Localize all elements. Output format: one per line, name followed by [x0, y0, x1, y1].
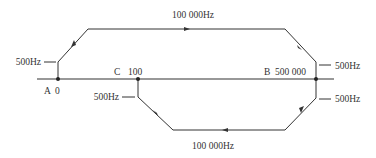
arrow-icon-upper-ramp	[71, 40, 76, 47]
arrow-icon-upper-top	[184, 27, 190, 31]
frequency-path-diagram: 100 000Hz 100 000Hz 500Hz 500Hz 500Hz 50…	[0, 0, 376, 158]
lower-path	[138, 79, 316, 130]
point-a-marker	[56, 77, 60, 81]
b-decel-upper-label: 500Hz	[335, 61, 360, 71]
point-b-marker	[314, 77, 318, 81]
point-a-value: 0	[55, 86, 60, 96]
point-c-name: C	[114, 67, 120, 77]
point-c-marker	[136, 77, 140, 81]
point-b-name: B	[264, 67, 270, 77]
c-decel-label: 500Hz	[94, 92, 119, 102]
arrow-icon-lower-bottom	[222, 128, 228, 132]
a-accel-label: 500Hz	[16, 57, 41, 67]
point-a-name: A	[44, 86, 51, 96]
arrow-icon-lower-ascent	[153, 110, 158, 116]
b-accel-lower-label: 500Hz	[335, 94, 360, 104]
upper-rate-label: 100 000Hz	[172, 10, 214, 20]
point-b-value: 500 000	[275, 67, 306, 77]
point-c-value: 100	[128, 67, 143, 77]
arrow-icon-lower-ramp	[299, 106, 304, 113]
lower-rate-label: 100 000Hz	[192, 141, 234, 151]
